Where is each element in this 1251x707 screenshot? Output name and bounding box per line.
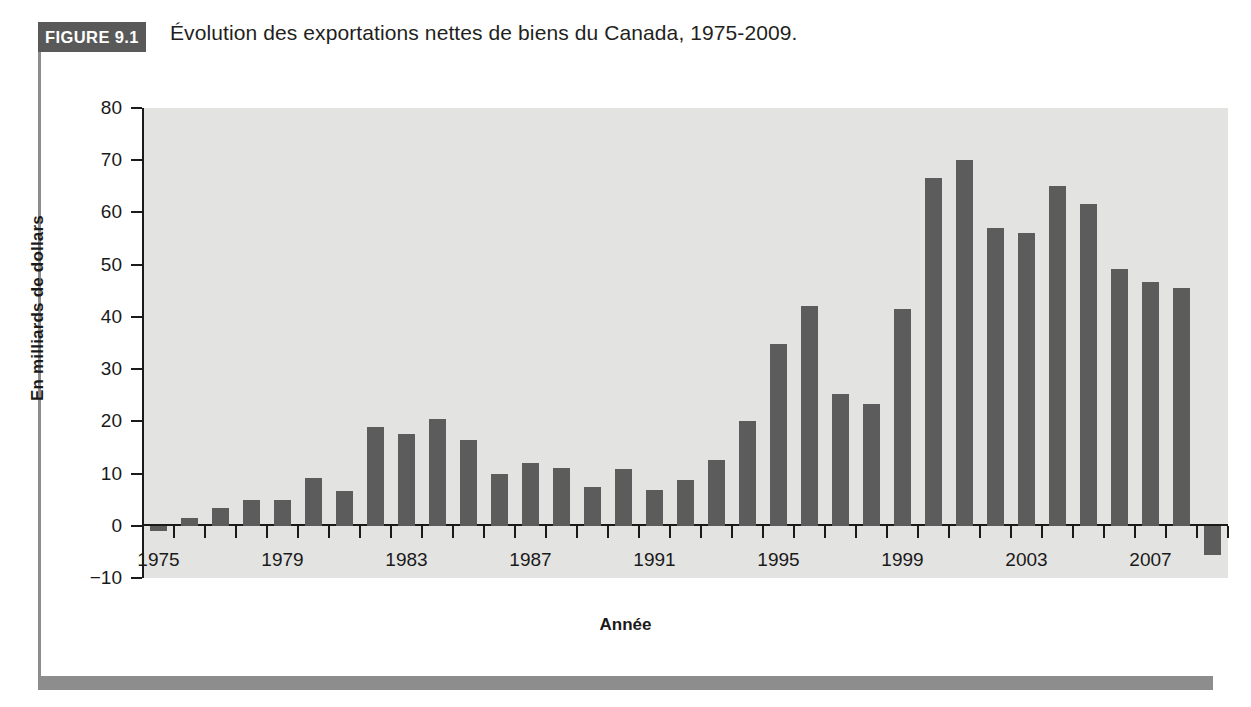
figure-title: Évolution des exportations nettes de bie… [170, 21, 798, 45]
x-tick [917, 526, 919, 538]
bar-1977 [212, 508, 230, 526]
bar-1988 [553, 468, 571, 525]
bar-1979 [274, 500, 292, 526]
x-tick [731, 526, 733, 538]
x-tick [452, 526, 454, 538]
y-tick [131, 577, 142, 579]
y-tick-label: 50 [62, 254, 122, 276]
x-tick [948, 526, 950, 538]
y-tick-label: 40 [62, 306, 122, 328]
figure-page: FIGURE 9.1 Évolution des exportations ne… [0, 0, 1251, 707]
bar-2001 [956, 160, 974, 526]
bar-2007 [1142, 282, 1160, 525]
figure-header: FIGURE 9.1 Évolution des exportations ne… [0, 22, 1251, 62]
bar-2003 [1018, 233, 1036, 526]
x-tick [266, 526, 268, 538]
bar-1995 [770, 344, 788, 526]
y-tick [131, 473, 142, 475]
bar-1989 [584, 487, 602, 526]
bar-1980 [305, 478, 323, 526]
x-tick [762, 526, 764, 538]
y-tick-label: 20 [62, 410, 122, 432]
bar-1982 [367, 427, 385, 526]
x-tick [173, 526, 175, 538]
x-tick-label: 1983 [367, 549, 447, 571]
bar-1997 [832, 394, 850, 526]
x-tick-label: 1995 [739, 549, 819, 571]
bar-1983 [398, 434, 416, 525]
y-tick-label: 60 [62, 201, 122, 223]
x-tick-label: 2003 [987, 549, 1067, 571]
bar-1975 [150, 526, 168, 531]
bar-1981 [336, 491, 354, 526]
x-tick [235, 526, 237, 538]
y-tick [131, 107, 142, 109]
x-tick [142, 526, 144, 538]
x-tick [204, 526, 206, 538]
x-tick [328, 526, 330, 538]
x-tick-label: 1975 [119, 549, 199, 571]
y-tick [131, 264, 142, 266]
x-tick-label: 1979 [243, 549, 323, 571]
y-tick-label: −10 [62, 567, 122, 589]
y-tick [131, 420, 142, 422]
x-tick [793, 526, 795, 538]
x-tick [1227, 526, 1229, 538]
bar-1986 [491, 474, 509, 526]
bar-1984 [429, 419, 447, 526]
x-tick [1165, 526, 1167, 538]
x-tick-label: 1987 [491, 549, 571, 571]
y-tick [131, 525, 142, 527]
y-tick [131, 316, 142, 318]
y-axis-label: En milliards de dollars [28, 208, 48, 408]
bar-1978 [243, 500, 261, 526]
y-tick [131, 211, 142, 213]
x-tick [855, 526, 857, 538]
x-axis-label: Année [0, 615, 1251, 635]
x-tick [576, 526, 578, 538]
bar-2006 [1111, 269, 1129, 526]
bar-1992 [677, 480, 695, 526]
x-tick [1072, 526, 1074, 538]
x-tick [824, 526, 826, 538]
x-tick [483, 526, 485, 538]
x-tick [979, 526, 981, 538]
x-tick [1134, 526, 1136, 538]
x-tick [700, 526, 702, 538]
x-tick [514, 526, 516, 538]
x-tick [390, 526, 392, 538]
y-tick [131, 159, 142, 161]
x-tick [886, 526, 888, 538]
bar-1990 [615, 469, 633, 525]
x-tick [1041, 526, 1043, 538]
bar-2005 [1080, 204, 1098, 526]
bar-1994 [739, 421, 757, 526]
x-tick [421, 526, 423, 538]
chart-container: En milliards de dollars −100102030405060… [0, 60, 1251, 640]
bar-1976 [181, 518, 199, 526]
x-tick [297, 526, 299, 538]
x-tick-label: 2007 [1111, 549, 1191, 571]
y-tick [131, 368, 142, 370]
x-tick-label: 1991 [615, 549, 695, 571]
x-tick [607, 526, 609, 538]
y-tick-label: 0 [62, 515, 122, 537]
bar-1991 [646, 490, 664, 526]
x-tick [1196, 526, 1198, 538]
bar-2008 [1173, 288, 1191, 526]
bar-1987 [522, 463, 540, 526]
x-tick [1103, 526, 1105, 538]
bar-1985 [460, 440, 478, 526]
y-axis-line [142, 108, 144, 578]
y-tick-label: 10 [62, 463, 122, 485]
x-tick [669, 526, 671, 538]
bar-2002 [987, 228, 1005, 526]
y-tick-label: 80 [62, 97, 122, 119]
bar-1993 [708, 460, 726, 526]
bar-2009 [1204, 526, 1222, 555]
bar-1998 [863, 404, 881, 526]
bar-2000 [925, 178, 943, 526]
x-tick-label: 1999 [863, 549, 943, 571]
y-tick-label: 70 [62, 149, 122, 171]
bar-1999 [894, 309, 912, 526]
